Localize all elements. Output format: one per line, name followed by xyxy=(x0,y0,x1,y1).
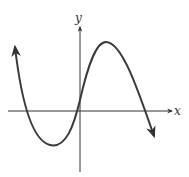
function-curve xyxy=(15,42,154,145)
y-axis-label: y xyxy=(74,11,82,25)
function-graph: y x xyxy=(0,0,189,177)
x-axis-label: x xyxy=(174,104,181,118)
